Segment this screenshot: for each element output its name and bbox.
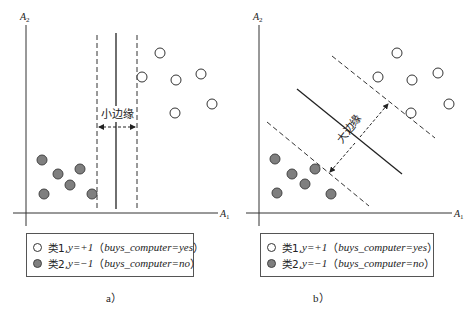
panel-a-class2-points: [37, 155, 97, 199]
panel-a-class1-points: [137, 48, 217, 118]
legend-item-class2: 类2, y=−1 （buys_computer=no）: [33, 256, 201, 270]
panel-b-class2-points: [270, 154, 336, 199]
legend-item-class1: 类1, y=+1 （buys_computer=yes）: [267, 240, 438, 254]
open-circle-icon: [33, 243, 42, 252]
panel-b-caption: b）: [313, 289, 330, 305]
panel-a-plot: A2 A1 小边缘: [13, 11, 230, 226]
panel-b-y-label: A2: [252, 11, 263, 24]
open-circle-icon: [267, 243, 276, 252]
panel-b-plot: A2 A1 大边缘: [246, 11, 464, 226]
panel-b-x-label: A1: [453, 208, 464, 221]
panel-a-caption: a）: [106, 289, 122, 305]
filled-circle-icon: [33, 259, 42, 268]
panel-b-margin-arrow-up: [360, 104, 388, 137]
panel-a-legend: 类1, y=+1 （buys_computer=yes） 类2, y=−1 （b…: [26, 233, 194, 277]
panel-b-margin-arrow-down: [330, 143, 355, 172]
panel-a-margin-label: 小边缘: [101, 108, 134, 121]
panel-b-class1-points: [373, 48, 454, 118]
panel-a-x-label: A1: [219, 208, 230, 221]
legend-item-class2: 类2, y=−1 （buys_computer=no）: [267, 256, 435, 270]
panel-b-legend: 类1, y=+1 （buys_computer=yes） 类2, y=−1 （b…: [260, 233, 434, 277]
filled-circle-icon: [267, 259, 276, 268]
panel-a-y-label: A2: [19, 11, 30, 24]
legend-item-class1: 类1, y=+1 （buys_computer=yes）: [33, 240, 204, 254]
